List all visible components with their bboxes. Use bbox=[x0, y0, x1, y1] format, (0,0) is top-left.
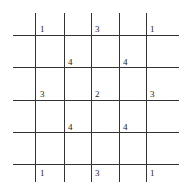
grid-number-label: 3 bbox=[40, 90, 45, 99]
grid-number-label: 3 bbox=[95, 25, 100, 34]
grid-number-label: 4 bbox=[68, 58, 73, 67]
grid-number-label: 1 bbox=[40, 169, 45, 178]
grid-vertical-line bbox=[91, 13, 92, 182]
grid-number-label: 1 bbox=[150, 169, 155, 178]
grid-number-label: 1 bbox=[40, 25, 45, 34]
grid-vertical-line bbox=[119, 13, 120, 182]
grid-number-label: 1 bbox=[150, 25, 155, 34]
grid-vertical-line bbox=[35, 13, 36, 182]
grid-number-label: 3 bbox=[95, 169, 100, 178]
number-grid-diagram: 1314432344131 bbox=[0, 0, 188, 194]
grid-horizontal-line bbox=[13, 35, 179, 36]
grid-number-label: 4 bbox=[123, 58, 128, 67]
grid-vertical-line bbox=[64, 13, 65, 182]
grid-number-label: 2 bbox=[95, 90, 100, 99]
grid-number-label: 4 bbox=[123, 123, 128, 132]
grid-number-label: 3 bbox=[150, 90, 155, 99]
grid-horizontal-line bbox=[13, 67, 179, 68]
grid-horizontal-line bbox=[13, 100, 179, 101]
grid-vertical-line bbox=[146, 13, 147, 182]
grid-number-label: 4 bbox=[68, 123, 73, 132]
grid-horizontal-line bbox=[13, 164, 179, 165]
grid-horizontal-line bbox=[13, 132, 179, 133]
